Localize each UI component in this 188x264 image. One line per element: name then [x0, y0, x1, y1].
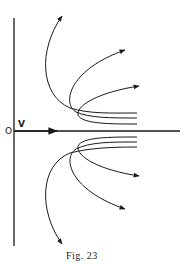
upper-trajectory-1 [46, 16, 137, 113]
figure-23-diagram: O V Fig. 23 [0, 0, 188, 264]
origin-label: O [5, 126, 12, 136]
figure-caption: Fig. 23 [66, 250, 98, 261]
upper-trajectories [46, 16, 139, 124]
velocity-label: V [18, 119, 25, 129]
upper-trajectory-2 [70, 50, 137, 118]
lower-trajectory-2 [70, 142, 137, 209]
lower-trajectories [46, 137, 139, 244]
